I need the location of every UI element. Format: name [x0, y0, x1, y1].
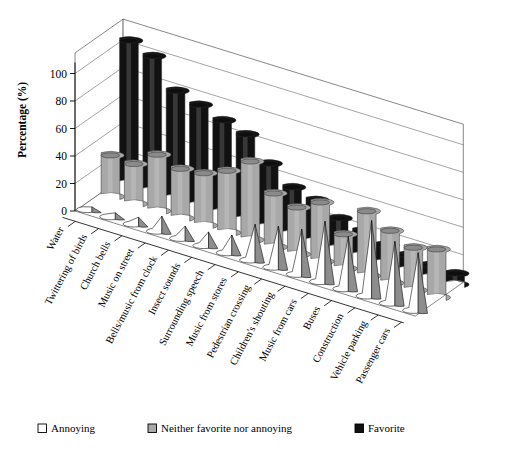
y-tick-label: 0 — [61, 205, 67, 217]
bar-top — [194, 171, 213, 176]
bar-top — [143, 54, 162, 59]
bar-top — [311, 200, 330, 205]
category-tick — [278, 286, 285, 291]
category-tick — [231, 272, 238, 277]
category-tick — [348, 308, 355, 313]
legend-label: Annoying — [51, 422, 96, 434]
y-tick-label: 40 — [56, 150, 68, 162]
category-label: Bells/music from clock — [103, 253, 159, 345]
bar-top — [358, 209, 377, 214]
bar-top — [264, 191, 283, 196]
bar-top — [334, 232, 353, 237]
category-tick — [324, 301, 331, 306]
legend-label: Neither favorite nor annoying — [161, 422, 293, 434]
bar-highlight — [434, 249, 439, 297]
category-tick — [138, 243, 145, 248]
bar-top — [446, 271, 465, 276]
bar-top — [288, 205, 307, 210]
category-tick — [115, 236, 122, 241]
category-tick — [301, 293, 308, 298]
y-axis: 020406080100 — [50, 63, 75, 218]
bar-top — [218, 168, 237, 173]
y-tick-label: 60 — [56, 123, 68, 135]
three-d-bar-chart: 020406080100Percentage (%)WaterTwitterin… — [0, 0, 505, 460]
bar-top — [427, 247, 446, 252]
bar-top — [166, 88, 185, 93]
bar-top — [329, 216, 348, 221]
category-tick — [254, 279, 261, 284]
bar-top — [236, 132, 255, 137]
bar-highlight — [108, 155, 113, 196]
y-tick-label: 100 — [50, 68, 68, 80]
legend: AnnoyingNeither favorite nor annoyingFav… — [38, 422, 405, 434]
bar-top — [148, 152, 167, 157]
category-tick — [68, 221, 75, 226]
cone-left — [76, 207, 92, 213]
bar-highlight — [155, 155, 160, 211]
bar-top — [283, 185, 302, 190]
category-tick — [161, 250, 168, 255]
category-tick — [91, 229, 98, 234]
y-tick-label: 80 — [56, 95, 68, 107]
bar-top — [171, 166, 190, 171]
y-tick-label: 20 — [56, 178, 68, 190]
bar-top — [404, 245, 423, 250]
legend-label: Favorite — [368, 422, 405, 434]
legend-swatch-black — [355, 424, 364, 433]
y-axis-title: Percentage (%) — [16, 82, 29, 158]
category-tick — [208, 265, 215, 270]
legend-swatch-gray — [148, 424, 157, 433]
bar-top — [381, 228, 400, 233]
bar-highlight — [201, 173, 206, 225]
bar-highlight — [224, 171, 229, 233]
category-tick — [394, 322, 401, 327]
category-label: Water — [45, 225, 67, 253]
bar-top — [190, 102, 209, 107]
bar-highlight — [131, 164, 136, 204]
bar-top — [241, 159, 260, 164]
category-tick — [184, 257, 191, 262]
bar-top — [120, 38, 139, 43]
bar-top — [101, 153, 120, 158]
bar-top — [125, 161, 144, 166]
bar-highlight — [248, 162, 253, 240]
category-tick — [371, 315, 378, 320]
legend-swatch-white — [38, 424, 47, 433]
category-label: Buses — [301, 304, 322, 331]
chart-figure: 020406080100Percentage (%)WaterTwitterin… — [0, 0, 505, 460]
bar-highlight — [178, 169, 183, 219]
bar-top — [213, 118, 232, 123]
